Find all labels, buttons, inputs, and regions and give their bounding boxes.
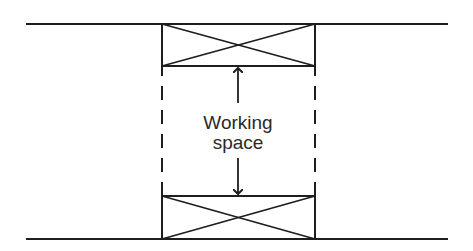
working-space-label-line1: Working (203, 112, 272, 133)
working-space-label-line2: space (213, 132, 264, 153)
top-cross-box (162, 24, 315, 66)
bottom-cross-box (162, 196, 315, 239)
working-space-diagram: Working space (0, 0, 473, 251)
diagram-canvas: Working space (0, 0, 473, 251)
